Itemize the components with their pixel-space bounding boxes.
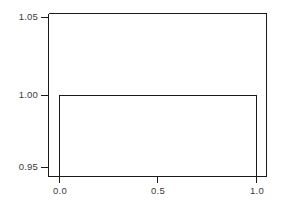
figure-background bbox=[0, 0, 283, 203]
x-tick-label-1-0: 1.0 bbox=[241, 186, 273, 196]
x-tick-label-0-5: 0.5 bbox=[142, 186, 174, 196]
y-tick-label-0-95: 0.95 bbox=[6, 162, 38, 172]
chart-figure: 1.05 1.00 0.95 0.0 0.5 1.0 bbox=[0, 0, 283, 203]
y-tick-label-1-05: 1.05 bbox=[6, 12, 38, 22]
y-tick-label-1-00: 1.00 bbox=[6, 90, 38, 100]
plot-canvas bbox=[0, 0, 283, 203]
x-tick-label-0-0: 0.0 bbox=[44, 186, 76, 196]
